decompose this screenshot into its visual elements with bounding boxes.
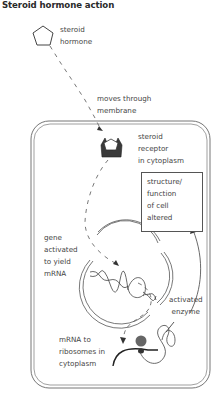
receptor-to-nucleus-path — [85, 160, 115, 263]
label-mrna-to-ribosomes: mRNA to ribosomes in cytoplasm — [59, 334, 105, 370]
arrowhead-icon — [97, 126, 103, 131]
label-steroid-receptor: steroid receptor in cytoplasm — [138, 131, 184, 167]
nucleus-envelope — [79, 220, 173, 328]
structure-function-box: structure/ function of cell altered — [141, 172, 203, 232]
hormone-path-arrow — [50, 46, 100, 128]
label-steroid-hormone: steroid hormone — [60, 24, 92, 48]
dna-helix-icon — [90, 271, 156, 301]
pentagon-icon — [33, 26, 53, 45]
ribosome-icon — [136, 336, 147, 354]
label-activated-enzyme: activated enzyme — [169, 294, 203, 318]
receptor-icon — [101, 138, 122, 157]
arrowhead-icon — [113, 260, 119, 266]
label-moves-through-membrane: moves through membrane — [97, 93, 151, 117]
arrowhead-icon — [120, 337, 126, 344]
label-gene-activated: gene activated to yield mRNA — [44, 232, 78, 280]
